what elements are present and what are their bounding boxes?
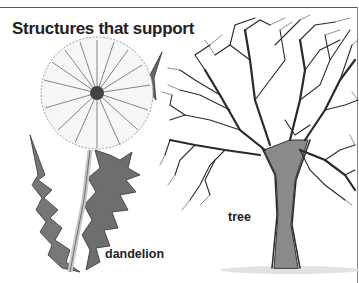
label-tree: tree [228, 210, 251, 224]
tree-trunk [264, 140, 308, 268]
figure-frame: Structures that support tree dandelion [0, 0, 359, 283]
dandelion-center [90, 86, 104, 100]
figure-title: Structures that support [12, 19, 194, 39]
dandelion-illustration [30, 37, 162, 272]
illustration-canvas [0, 0, 359, 283]
tree-illustration [160, 15, 359, 274]
label-dandelion: dandelion [105, 247, 164, 261]
